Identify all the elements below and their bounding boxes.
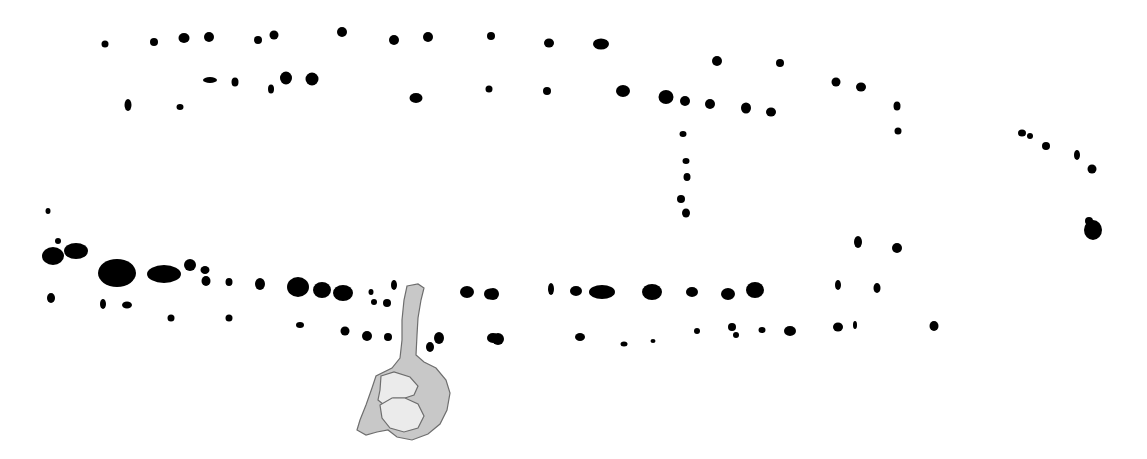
- posthole: [694, 328, 700, 334]
- posthole: [651, 339, 656, 343]
- posthole: [930, 321, 939, 331]
- posthole: [721, 288, 735, 300]
- posthole: [492, 333, 504, 345]
- posthole: [55, 238, 61, 244]
- posthole: [341, 327, 350, 336]
- posthole: [287, 277, 309, 297]
- posthole: [313, 282, 331, 298]
- site-plan: [0, 0, 1147, 459]
- posthole: [306, 73, 319, 86]
- posthole: [122, 302, 132, 309]
- posthole: [684, 173, 691, 181]
- posthole: [486, 86, 493, 93]
- posthole: [333, 285, 353, 301]
- posthole: [856, 83, 866, 92]
- posthole: [371, 299, 377, 305]
- posthole: [1074, 150, 1080, 160]
- posthole: [712, 56, 722, 66]
- posthole: [1042, 142, 1050, 150]
- posthole: [184, 259, 196, 271]
- posthole: [642, 284, 662, 300]
- postholes-layer: [42, 27, 1102, 352]
- pit-feature: [357, 284, 450, 440]
- posthole: [268, 85, 274, 94]
- posthole: [621, 342, 628, 347]
- posthole: [270, 31, 279, 40]
- posthole: [895, 128, 902, 135]
- posthole: [226, 278, 233, 286]
- posthole: [766, 108, 776, 117]
- posthole: [892, 243, 902, 253]
- posthole: [410, 93, 423, 103]
- posthole: [389, 35, 399, 45]
- posthole: [677, 195, 685, 203]
- posthole: [337, 27, 347, 37]
- posthole: [102, 41, 109, 48]
- posthole: [548, 283, 554, 295]
- posthole: [460, 286, 474, 298]
- posthole: [100, 299, 106, 309]
- posthole: [575, 333, 585, 341]
- posthole: [832, 78, 841, 87]
- posthole: [179, 33, 190, 43]
- posthole: [833, 323, 843, 332]
- posthole: [42, 247, 64, 265]
- posthole: [616, 85, 630, 97]
- posthole: [894, 102, 901, 111]
- posthole: [593, 39, 609, 50]
- posthole: [226, 315, 233, 322]
- posthole: [168, 315, 175, 322]
- posthole: [1018, 130, 1026, 137]
- posthole: [686, 287, 698, 297]
- posthole: [201, 266, 210, 274]
- posthole: [733, 332, 739, 338]
- posthole: [254, 36, 262, 44]
- posthole: [47, 293, 55, 303]
- posthole: [98, 259, 136, 287]
- posthole: [680, 131, 687, 137]
- posthole: [874, 283, 881, 293]
- posthole: [728, 323, 736, 331]
- posthole: [64, 243, 88, 259]
- posthole: [46, 208, 51, 214]
- posthole: [426, 342, 434, 352]
- posthole: [296, 322, 304, 328]
- posthole: [680, 96, 690, 106]
- posthole: [705, 99, 715, 109]
- posthole: [682, 209, 690, 218]
- posthole: [589, 285, 615, 299]
- posthole: [759, 327, 766, 333]
- posthole: [202, 276, 211, 286]
- posthole: [150, 38, 158, 46]
- posthole: [741, 103, 751, 114]
- posthole: [1088, 165, 1097, 174]
- posthole: [434, 332, 444, 344]
- posthole: [280, 72, 292, 85]
- posthole: [854, 236, 862, 248]
- posthole: [369, 289, 374, 295]
- posthole: [255, 278, 265, 290]
- posthole: [362, 331, 372, 341]
- posthole: [423, 32, 433, 42]
- posthole: [125, 99, 132, 111]
- posthole: [383, 299, 391, 307]
- posthole: [232, 78, 239, 87]
- posthole: [1085, 217, 1093, 225]
- posthole: [147, 265, 181, 283]
- posthole: [835, 280, 841, 290]
- posthole: [746, 282, 764, 298]
- posthole: [204, 32, 214, 42]
- posthole: [177, 104, 184, 110]
- posthole: [384, 333, 392, 341]
- posthole: [784, 326, 796, 336]
- posthole: [570, 286, 582, 296]
- posthole: [543, 87, 551, 95]
- posthole: [683, 158, 690, 164]
- posthole: [776, 59, 784, 67]
- posthole: [544, 39, 554, 48]
- posthole: [853, 321, 857, 329]
- posthole: [487, 32, 495, 40]
- posthole: [1027, 133, 1033, 139]
- posthole: [203, 77, 217, 83]
- posthole: [659, 90, 674, 104]
